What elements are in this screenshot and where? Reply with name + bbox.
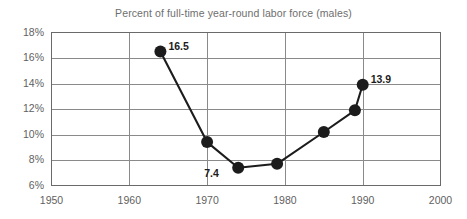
data-point-value-label: 13.9 — [371, 73, 391, 85]
x-axis-tick-label: 2000 — [411, 194, 467, 206]
y-axis-tick-label: 6% — [2, 179, 44, 191]
x-axis-tick-label: 1990 — [333, 194, 393, 206]
y-axis-tick-label: 14% — [2, 77, 44, 89]
y-axis-tick-label: 16% — [2, 51, 44, 63]
x-axis-tick-label: 1970 — [177, 194, 237, 206]
data-point-marker — [232, 162, 244, 174]
y-axis-tick-label: 18% — [2, 26, 44, 38]
data-point-marker — [201, 136, 213, 148]
data-point-value-label: 16.5 — [168, 40, 188, 52]
data-point-marker — [357, 79, 369, 91]
x-axis-tick-label: 1960 — [99, 194, 159, 206]
data-point-marker — [349, 104, 361, 116]
data-point-marker — [271, 158, 283, 170]
data-point-value-label: 7.4 — [204, 167, 219, 179]
x-axis-tick-label: 1980 — [255, 194, 315, 206]
x-axis-tick-label: 1950 — [22, 194, 82, 206]
y-axis-tick-label: 12% — [2, 102, 44, 114]
chart-container: Percent of full-time year-round labor fo… — [0, 0, 467, 219]
plot-area — [0, 0, 467, 219]
y-axis-tick-label: 10% — [2, 128, 44, 140]
data-point-marker — [318, 126, 330, 138]
data-point-marker — [154, 46, 166, 58]
y-axis-tick-label: 8% — [2, 153, 44, 165]
